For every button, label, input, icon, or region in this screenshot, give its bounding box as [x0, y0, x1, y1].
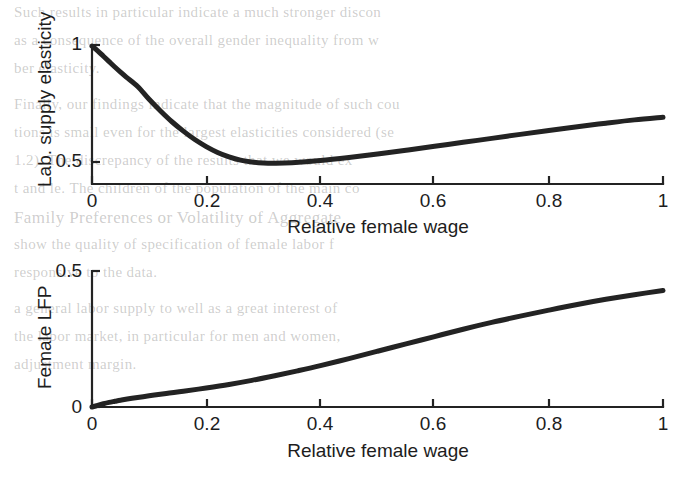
- axis-spines-bottom: [92, 271, 663, 407]
- data-curve-female-lfp: [92, 291, 663, 407]
- data-curve-labor-supply-elasticity: [92, 46, 663, 163]
- axis-spines-top: [92, 45, 663, 184]
- x-tick-label-top-0p6: 0.6: [405, 190, 461, 212]
- x-tick-label-top-1: 1: [643, 190, 683, 212]
- x-tick-label-top-0p4: 0.4: [292, 190, 348, 212]
- x-axis-label-bottom: Relative female wage: [246, 440, 510, 462]
- panel-female-lfp: Female LFP 0.5 0 0 0.2 0.4 0.6 0.8 1 Rel…: [0, 248, 688, 479]
- x-tick-label-bottom-1: 1: [643, 413, 683, 435]
- x-tick-label-bottom-0p6: 0.6: [405, 413, 461, 435]
- x-tick-label-bottom-0: 0: [72, 413, 112, 435]
- x-tick-label-bottom-0p4: 0.4: [292, 413, 348, 435]
- x-tick-label-top-0p2: 0.2: [179, 190, 235, 212]
- x-tick-label-bottom-0p2: 0.2: [179, 413, 235, 435]
- plot-area-bottom: [0, 248, 688, 433]
- x-tick-label-top-0: 0: [72, 190, 112, 212]
- panel-labor-supply-elasticity: Lab. supply elasticity 1 0.5 0 0.2 0.4 0…: [0, 0, 688, 240]
- x-tick-label-bottom-0p8: 0.8: [521, 413, 577, 435]
- x-tick-label-top-0p8: 0.8: [521, 190, 577, 212]
- x-axis-label-top: Relative female wage: [246, 216, 510, 238]
- figure-two-panel-plot: Lab. supply elasticity 1 0.5 0 0.2 0.4 0…: [0, 0, 688, 479]
- plot-area-top: [0, 0, 688, 200]
